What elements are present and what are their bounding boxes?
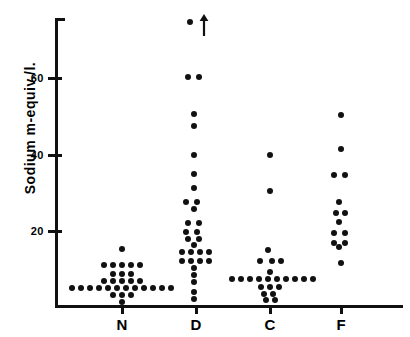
data-point	[183, 199, 189, 205]
data-point	[119, 292, 125, 298]
data-point	[110, 271, 116, 277]
data-point	[310, 276, 316, 282]
data-point	[333, 210, 339, 216]
data-point	[197, 249, 203, 255]
data-point	[128, 292, 134, 298]
data-point	[128, 278, 134, 284]
data-point	[336, 219, 342, 225]
data-point	[265, 247, 271, 253]
data-point	[191, 123, 197, 129]
data-point	[191, 185, 197, 191]
data-point	[274, 276, 280, 282]
data-point	[276, 284, 282, 290]
data-point	[119, 278, 125, 284]
data-point	[267, 269, 273, 275]
data-point	[238, 276, 244, 282]
data-point	[101, 278, 107, 284]
plot-area	[0, 0, 410, 337]
data-point	[342, 240, 348, 246]
data-point	[110, 262, 116, 268]
data-point	[256, 276, 262, 282]
data-point	[342, 210, 348, 216]
data-point	[267, 284, 273, 290]
data-point	[336, 199, 342, 205]
data-point	[196, 74, 202, 80]
data-point	[110, 278, 116, 284]
data-point	[141, 285, 147, 291]
data-point	[229, 276, 235, 282]
data-point	[338, 146, 344, 152]
data-point	[336, 244, 342, 250]
data-point	[283, 276, 289, 282]
data-point	[78, 285, 84, 291]
data-point	[191, 171, 197, 177]
data-point	[331, 172, 337, 178]
data-point	[179, 258, 185, 264]
data-point	[269, 258, 275, 264]
data-point	[196, 236, 202, 242]
data-point	[101, 262, 107, 268]
data-point	[150, 285, 156, 291]
data-point	[194, 199, 200, 205]
data-point	[191, 206, 197, 212]
data-point	[267, 188, 273, 194]
data-point	[247, 276, 253, 282]
data-point	[191, 111, 197, 117]
data-point	[96, 285, 102, 291]
data-point	[292, 276, 298, 282]
data-point	[257, 258, 263, 264]
dot-plot-figure: Sodium m-equiv./l. 604020 NDCF	[0, 0, 410, 337]
data-point	[119, 262, 125, 268]
data-point	[191, 242, 197, 248]
data-point	[278, 258, 284, 264]
data-point	[191, 279, 197, 285]
data-point	[179, 249, 185, 255]
data-point	[191, 152, 197, 158]
up-arrow-icon	[198, 14, 210, 36]
data-point	[191, 296, 197, 302]
data-point	[87, 285, 93, 291]
data-point	[119, 299, 125, 305]
data-point	[183, 229, 189, 235]
data-point	[331, 230, 337, 236]
data-point	[272, 297, 278, 303]
data-point	[191, 289, 197, 295]
data-point	[119, 271, 125, 277]
data-point	[301, 276, 307, 282]
data-point	[191, 272, 197, 278]
data-point	[185, 74, 191, 80]
data-point	[168, 285, 174, 291]
data-point	[137, 278, 143, 284]
data-point	[206, 249, 212, 255]
data-point	[342, 230, 348, 236]
data-point	[132, 285, 138, 291]
data-point	[185, 236, 191, 242]
data-point	[194, 229, 200, 235]
data-point	[188, 249, 194, 255]
data-point	[105, 285, 111, 291]
data-point	[188, 258, 194, 264]
data-point	[191, 265, 197, 271]
data-point	[114, 285, 120, 291]
data-point	[196, 220, 202, 226]
data-point	[263, 297, 269, 303]
data-point	[128, 262, 134, 268]
data-point	[123, 285, 129, 291]
data-point	[110, 292, 116, 298]
data-point	[137, 262, 143, 268]
data-point	[185, 220, 191, 226]
data-point	[187, 19, 193, 25]
data-point	[159, 285, 165, 291]
data-point	[267, 152, 273, 158]
data-point	[338, 260, 344, 266]
data-point	[197, 258, 203, 264]
data-point	[258, 284, 264, 290]
data-point	[119, 246, 125, 252]
data-point	[338, 112, 344, 118]
data-point	[265, 276, 271, 282]
data-point	[206, 258, 212, 264]
data-point	[342, 172, 348, 178]
data-point	[69, 285, 75, 291]
data-point	[128, 271, 134, 277]
